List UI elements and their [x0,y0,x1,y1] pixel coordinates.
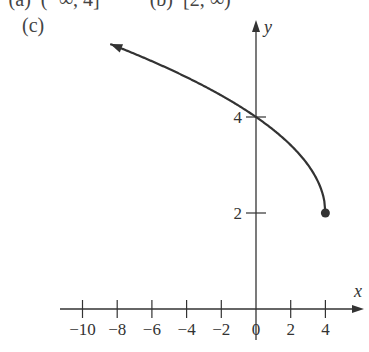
x-axis-label: x [353,281,362,301]
function-graph: xy −10−8−6−4−202424 [0,0,369,352]
x-tick-label: 0 [252,320,261,339]
ticks: −10−8−6−4−202424 [69,108,330,339]
endpoint-dot [321,209,330,218]
x-tick-label: 4 [321,320,330,339]
y-axis-arrow-icon [252,20,260,32]
curve-arrow-icon [110,44,123,53]
curve [110,44,330,218]
y-axis-label: y [262,17,272,37]
x-tick-label: −6 [143,320,161,339]
x-tick-label: −10 [69,320,96,339]
x-tick-label: −8 [108,320,126,339]
y-tick-label: 4 [234,108,243,127]
x-tick-label: 2 [286,320,295,339]
y-tick-label: 2 [234,204,243,223]
x-axis-arrow-icon [352,305,364,313]
function-curve [110,44,325,213]
axes: xy [60,17,364,340]
x-tick-label: −4 [178,320,197,339]
x-tick-label: −2 [212,320,230,339]
